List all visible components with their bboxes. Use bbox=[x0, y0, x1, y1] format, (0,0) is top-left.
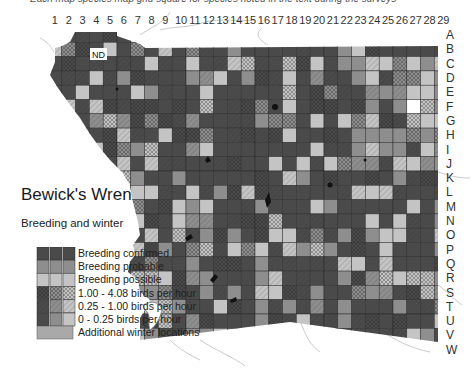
row-label: S bbox=[446, 286, 454, 300]
column-label: 4 bbox=[93, 14, 99, 26]
row-label: Q bbox=[446, 257, 455, 271]
row-label: M bbox=[446, 200, 456, 214]
column-label: 18 bbox=[285, 14, 297, 26]
row-label: B bbox=[446, 42, 454, 56]
row-label: C bbox=[446, 57, 455, 71]
column-labels: 1234567891011121314151617181920212223242… bbox=[0, 14, 474, 28]
column-label: 25 bbox=[382, 14, 394, 26]
column-label: 6 bbox=[121, 14, 127, 26]
column-label: 12 bbox=[203, 14, 215, 26]
column-label: 21 bbox=[327, 14, 339, 26]
row-label: F bbox=[446, 100, 453, 114]
legend-breeding-possible: Breeding possible bbox=[78, 273, 161, 285]
column-label: 16 bbox=[258, 14, 270, 26]
column-label: 23 bbox=[354, 14, 366, 26]
nd-label: ND bbox=[92, 50, 105, 60]
column-label: 15 bbox=[244, 14, 256, 26]
legend-mid-abundance: 0.25 - 1.00 birds per hour bbox=[78, 300, 196, 312]
cut-caption: Each map species map grid square for spe… bbox=[30, 0, 396, 4]
row-label: A bbox=[446, 28, 454, 42]
column-label: 27 bbox=[410, 14, 422, 26]
column-label: 1 bbox=[52, 14, 58, 26]
row-label: V bbox=[446, 328, 454, 342]
column-label: 3 bbox=[79, 14, 85, 26]
row-label: N bbox=[446, 214, 455, 228]
row-label: R bbox=[446, 271, 455, 285]
legend-winter-locations: Additional winter locations bbox=[78, 326, 199, 338]
row-label: L bbox=[446, 185, 453, 199]
column-label: 5 bbox=[107, 14, 113, 26]
column-label: 14 bbox=[230, 14, 242, 26]
column-label: 10 bbox=[175, 14, 187, 26]
column-label: 19 bbox=[299, 14, 311, 26]
column-label: 13 bbox=[216, 14, 228, 26]
legend-breeding-confirmed: Breeding confirmed bbox=[78, 247, 169, 259]
column-label: 7 bbox=[135, 14, 141, 26]
column-label: 29 bbox=[437, 14, 449, 26]
column-label: 8 bbox=[148, 14, 154, 26]
row-label: E bbox=[446, 85, 454, 99]
map-subtitle: Breeding and winter bbox=[21, 217, 123, 229]
row-label: G bbox=[446, 114, 455, 128]
column-label: 11 bbox=[189, 14, 200, 26]
column-label: 22 bbox=[341, 14, 353, 26]
column-label: 28 bbox=[423, 14, 435, 26]
row-label: I bbox=[446, 143, 449, 157]
row-label: D bbox=[446, 71, 455, 85]
row-label: P bbox=[446, 243, 454, 257]
legend-high-abundance: 1.00 - 4.08 birds per hour bbox=[78, 287, 196, 299]
column-label: 2 bbox=[66, 14, 72, 26]
row-label: O bbox=[446, 228, 455, 242]
species-title: Bewick's Wren bbox=[21, 185, 132, 205]
column-label: 24 bbox=[368, 14, 380, 26]
row-label: T bbox=[446, 300, 453, 314]
row-label: W bbox=[446, 343, 457, 357]
row-label: H bbox=[446, 128, 455, 142]
column-label: 20 bbox=[313, 14, 325, 26]
column-label: 9 bbox=[162, 14, 168, 26]
column-label: 26 bbox=[396, 14, 408, 26]
column-label: 17 bbox=[272, 14, 284, 26]
legend-swatches bbox=[20, 247, 76, 342]
legend-breeding-probable: Breeding probable bbox=[78, 260, 164, 272]
row-label: K bbox=[446, 171, 454, 185]
row-label: J bbox=[446, 157, 452, 171]
legend-low-abundance: 0 - 0.25 birds per hour bbox=[78, 313, 181, 325]
row-label: U bbox=[446, 314, 455, 328]
